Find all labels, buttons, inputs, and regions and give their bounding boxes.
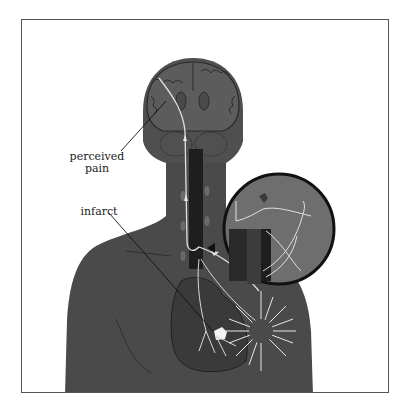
perceived-pain-label-line2: pain [62,163,132,175]
spinal-cord [189,149,203,269]
magnified-inset [224,174,334,284]
figure-frame: perceived pain infarct [21,19,389,393]
perceived-pain-label: perceived pain [62,151,132,175]
infarct-label: infarct [69,206,129,218]
